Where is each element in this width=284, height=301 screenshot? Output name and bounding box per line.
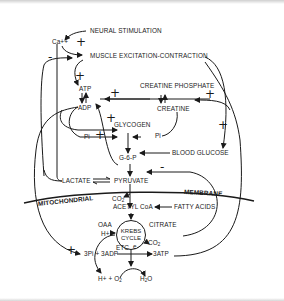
sign-atp-plus: + <box>110 87 120 99</box>
node-3atp: 3ATP <box>153 251 169 257</box>
sign-mito-plus: + <box>66 244 76 256</box>
node-glycogen: GLYCOGEN <box>114 122 151 128</box>
node-blood-glucose: BLOOD GLUCOSE <box>172 150 229 156</box>
node-creatine-phosphate: CREATINE PHOSPHATE <box>140 83 214 89</box>
node-lactate: LACTATE <box>62 178 91 184</box>
node-acetyl-coa: ACETYL CoA <box>113 204 153 210</box>
node-h-o2: H+ + O2 <box>98 276 122 284</box>
node-calcium: Ca++ <box>52 39 68 45</box>
krebs-label-1: KREBS <box>121 228 141 235</box>
node-h2o: H2O <box>140 276 152 284</box>
sign-ca-minus: - <box>48 51 52 63</box>
node-pi-adp: 3Pi + 3ADP <box>84 251 118 257</box>
sign-glucose-plus: + <box>218 119 228 131</box>
krebs-label-2: CYCLE <box>121 235 141 242</box>
node-muscle-excitation: MUSCLE EXCITATION-CONTRACTION <box>90 53 208 59</box>
node-neural-stimulation: NEURAL STIMULATION <box>90 28 162 34</box>
node-co2-right: CO2 <box>148 240 160 248</box>
sign-creatine-plus: + <box>205 88 215 100</box>
node-atp: ATP <box>79 86 91 92</box>
sign-pi-plus: + <box>95 129 105 141</box>
node-g6p: G-6-P <box>119 155 137 161</box>
node-h-plus: H+ <box>101 231 110 237</box>
node-adp: ADP <box>78 105 91 111</box>
node-creatine: CREATINE <box>157 106 190 112</box>
diagram-canvas: NEURAL STIMULATION Ca++ MUSCLE EXCITATIO… <box>0 0 284 301</box>
sign-pyruvate-minus: - <box>160 161 164 173</box>
node-pi-left: Pi <box>84 134 90 140</box>
node-pi-right: Pi <box>155 133 161 139</box>
node-citrate: CITRATE <box>149 222 177 228</box>
node-pyruvate: PYRUVATE <box>114 178 148 184</box>
node-fatty-acids: FATTY ACIDS <box>174 204 215 210</box>
connector-arrows <box>0 0 284 301</box>
node-oaa: OAA <box>98 222 112 228</box>
sign-adp-plus: + <box>106 112 116 124</box>
node-e-minus: e- <box>133 244 139 250</box>
sign-ca-plus: + <box>76 36 86 48</box>
sign-excitation-plus: + <box>75 70 85 82</box>
